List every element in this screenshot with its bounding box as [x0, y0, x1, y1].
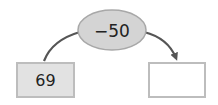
connector-line: [44, 32, 80, 61]
input-value: 69: [17, 63, 74, 97]
output-value[interactable]: [149, 63, 205, 97]
arrow-icon: [144, 32, 176, 58]
operation-label: −50: [78, 11, 146, 50]
